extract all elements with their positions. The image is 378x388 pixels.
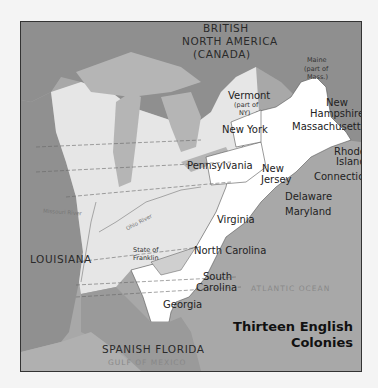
label-franklin-2: Franklin <box>133 255 159 262</box>
label-new-jersey-2: Jersey <box>261 175 292 186</box>
label-maryland: Maryland <box>285 207 331 218</box>
map-title: Thirteen English Colonies <box>233 319 353 352</box>
label-connecticut: Connecticut <box>314 172 362 183</box>
label-south-carolina-1: South <box>203 272 232 283</box>
label-massachusetts: Massachusetts <box>292 122 362 133</box>
label-new-hampshire-1: New <box>326 98 348 109</box>
label-atlantic-ocean: ATLANTIC OCEAN <box>251 285 330 293</box>
label-virginia: Virginia <box>217 215 255 226</box>
label-british-na-3: (CANADA) <box>193 49 251 60</box>
label-vermont: Vermont <box>228 91 270 102</box>
label-vermont-note-2: NY) <box>239 110 250 117</box>
label-new-jersey-1: New <box>262 164 284 175</box>
label-rhode-island-2: Island <box>336 157 362 168</box>
label-new-york: New York <box>222 125 268 136</box>
label-gulf-of-mexico: GULF OF MEXICO <box>108 359 186 367</box>
map-frame: BRITISH NORTH AMERICA (CANADA) Maine (pa… <box>20 21 362 372</box>
label-new-hampshire-2: Hampshire <box>310 109 362 120</box>
label-south-carolina-2: Carolina <box>196 283 237 294</box>
label-franklin-1: State of <box>133 247 159 254</box>
label-pennsylvania: Pennsylvania <box>187 161 253 172</box>
label-georgia: Georgia <box>163 300 202 311</box>
label-vermont-note-1: (part of <box>234 102 258 109</box>
label-british-na-1: BRITISH <box>203 23 249 34</box>
label-spanish-florida: SPANISH FLORIDA <box>102 344 205 355</box>
label-delaware: Delaware <box>285 192 332 203</box>
label-north-carolina: North Carolina <box>194 246 266 257</box>
label-louisiana: LOUISIANA <box>30 254 92 265</box>
map-title-line-2: Colonies <box>233 335 353 351</box>
label-maine-3: Mass.) <box>307 74 328 81</box>
map-title-line-1: Thirteen English <box>233 319 353 335</box>
label-maine-2: (part of <box>304 66 328 73</box>
label-maine-1: Maine <box>307 57 327 64</box>
label-british-na-2: NORTH AMERICA <box>182 36 278 47</box>
